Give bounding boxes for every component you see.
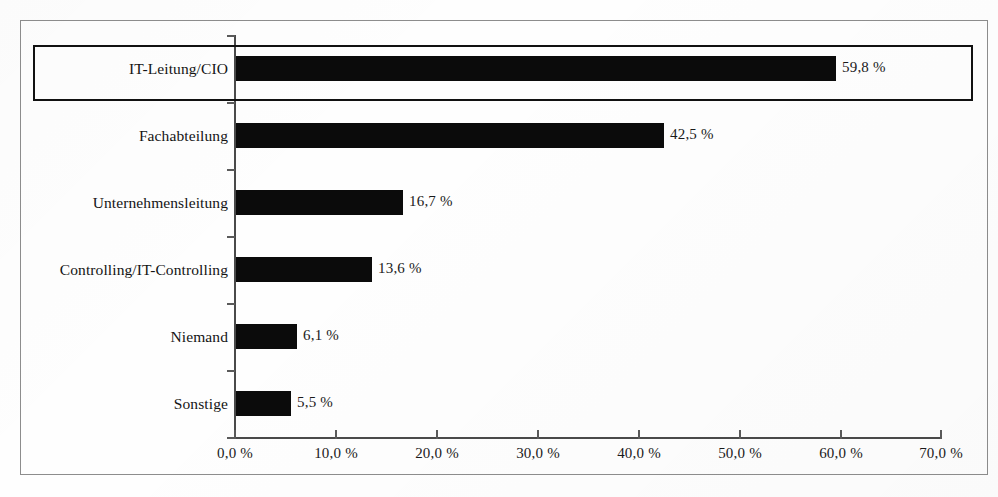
bar-niemand	[236, 324, 297, 349]
value-axis-tick	[234, 430, 236, 439]
category-axis-tick	[227, 102, 235, 104]
bar-it-leitung-cio	[236, 56, 836, 81]
bar-value-niemand: 6,1 %	[303, 327, 339, 344]
value-axis-tick	[940, 430, 942, 439]
bar-sonstige	[236, 391, 291, 416]
bar-chart-figure: 0,0 % 10,0 % 20,0 % 30,0 % 40,0 % 50,0 %…	[0, 0, 998, 497]
value-axis-tick	[638, 430, 640, 439]
bar-controlling-it-controlling	[236, 257, 372, 282]
category-axis-tick	[227, 370, 235, 372]
value-axis-tick-label: 60,0 %	[801, 445, 881, 462]
value-axis-tick	[335, 430, 337, 439]
value-axis-tick-label: 0,0 %	[195, 445, 275, 462]
bar-value-it-leitung-cio: 59,8 %	[842, 59, 886, 76]
value-axis-tick	[840, 430, 842, 439]
value-axis-tick	[537, 430, 539, 439]
category-axis-tick	[227, 236, 235, 238]
value-axis-tick	[739, 430, 741, 439]
category-label-it-leitung-cio: IT-Leitung/CIO	[129, 60, 228, 78]
value-axis-tick-label: 20,0 %	[397, 445, 477, 462]
bar-value-sonstige: 5,5 %	[297, 394, 333, 411]
value-axis-tick-label: 70,0 %	[901, 445, 981, 462]
value-axis-tick-label: 30,0 %	[498, 445, 578, 462]
category-axis-tick	[227, 35, 235, 37]
value-axis-tick-label: 40,0 %	[599, 445, 679, 462]
bar-fachabteilung	[236, 123, 664, 148]
bar-value-fachabteilung: 42,5 %	[670, 126, 714, 143]
category-axis-tick	[227, 169, 235, 171]
bar-value-controlling-it-controlling: 13,6 %	[378, 260, 422, 277]
value-axis-tick-label: 10,0 %	[296, 445, 376, 462]
category-label-unternehmensleitung: Unternehmensleitung	[93, 194, 228, 212]
value-axis-tick	[436, 430, 438, 439]
category-label-sonstige: Sonstige	[174, 395, 228, 413]
category-label-controlling-it-controlling: Controlling/IT-Controlling	[60, 261, 228, 279]
bar-unternehmensleitung	[236, 190, 403, 215]
plot-area: 0,0 % 10,0 % 20,0 % 30,0 % 40,0 % 50,0 %…	[0, 0, 998, 497]
value-axis-line	[234, 437, 940, 439]
value-axis-tick-label: 50,0 %	[700, 445, 780, 462]
category-label-fachabteilung: Fachabteilung	[139, 127, 228, 145]
bar-value-unternehmensleitung: 16,7 %	[409, 193, 453, 210]
category-axis-tick	[227, 303, 235, 305]
category-label-niemand: Niemand	[170, 328, 228, 346]
